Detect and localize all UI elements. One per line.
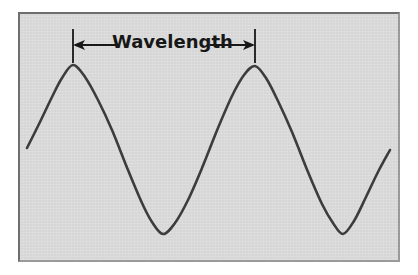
wavelength-figure: Wavelength [0,0,418,275]
sine-wave-curve [27,65,390,234]
wave-diagram-svg [0,0,418,275]
